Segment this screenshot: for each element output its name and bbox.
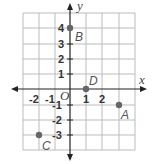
y-axis-up-arrow-icon xyxy=(67,3,73,10)
y-tick-label: 2 xyxy=(58,53,64,65)
y-axis-down-arrow-icon xyxy=(67,154,73,161)
x-tick-label: 1 xyxy=(83,93,89,105)
x-axis-left-arrow-icon xyxy=(11,86,18,92)
y-tick-label: 4 xyxy=(58,22,65,34)
x-tick-label: -2 xyxy=(29,93,39,105)
point-b-label: B xyxy=(75,30,83,44)
x-tick-label: 2 xyxy=(99,93,105,105)
y-axis-label: y xyxy=(75,0,83,13)
point-c-label: C xyxy=(42,139,51,153)
y-tick-label: -3 xyxy=(52,129,62,141)
point-a-label: A xyxy=(120,108,129,122)
y-tick-label: 1 xyxy=(58,68,64,80)
point-b xyxy=(67,25,73,31)
y-tick-label: -1 xyxy=(52,99,62,111)
point-d-label: D xyxy=(89,74,98,88)
y-tick-label: -2 xyxy=(52,114,62,126)
y-tick-label: 3 xyxy=(58,38,64,50)
x-axis-label: x xyxy=(138,72,145,87)
coordinate-plane: y x O -2 -1 1 2 4 3 2 1 -1 -2 -3 A B C D xyxy=(0,0,152,164)
point-c xyxy=(36,132,42,138)
